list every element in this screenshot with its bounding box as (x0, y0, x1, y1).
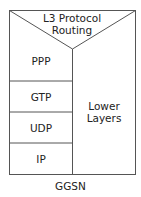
lower-layers-label: Lower Layers (73, 100, 135, 124)
layer-udp: UDP (10, 122, 72, 134)
layer-gtp: GTP (10, 91, 72, 103)
lower-layers-line2: Layers (73, 112, 135, 124)
l3-routing-line2: Routing (30, 24, 114, 36)
ggsn-caption: GGSN (0, 180, 141, 192)
lower-layers-line1: Lower (73, 100, 135, 112)
l3-routing-line1: L3 Protocol (30, 12, 114, 24)
layer-ip: IP (10, 153, 72, 165)
l3-routing-label: L3 Protocol Routing (30, 12, 114, 36)
layer-ppp: PPP (10, 55, 72, 67)
